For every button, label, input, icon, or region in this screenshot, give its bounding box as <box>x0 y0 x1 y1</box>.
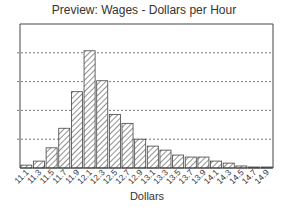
bar-12.9 <box>135 139 146 168</box>
bar-11.9 <box>71 92 82 168</box>
bar-12.3 <box>97 81 108 168</box>
bar-12.5 <box>109 114 120 168</box>
bar-14.1 <box>211 161 222 168</box>
bar-12.1 <box>84 51 95 168</box>
bar-11.5 <box>46 148 57 168</box>
bar-13.5 <box>173 155 184 168</box>
bar-13.7 <box>185 157 196 168</box>
bars <box>21 51 272 168</box>
bar-12.7 <box>122 123 133 168</box>
bar-11.7 <box>59 128 70 168</box>
bar-chart: 11.111.311.511.711.912.112.312.512.712.9… <box>0 0 288 214</box>
bar-13.1 <box>147 146 158 168</box>
plot-frame <box>20 24 273 168</box>
x-axis-label: Dollars <box>0 190 288 202</box>
bar-11.3 <box>33 161 44 168</box>
x-tick-labels: 11.111.311.511.711.912.112.312.512.712.9… <box>12 167 271 186</box>
gridlines <box>17 53 273 139</box>
bar-13.3 <box>160 150 171 168</box>
x-tick-label: 14.9 <box>252 167 271 186</box>
bar-13.9 <box>198 157 209 168</box>
